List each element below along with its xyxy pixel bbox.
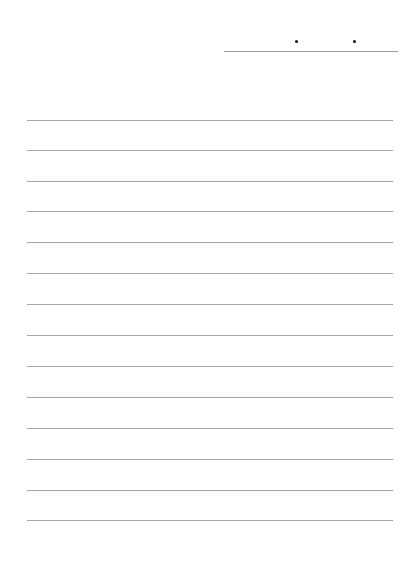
writing-line-12[interactable]: [27, 459, 393, 460]
writing-line-3[interactable]: [27, 181, 393, 182]
writing-line-10[interactable]: [27, 397, 393, 398]
writing-line-2[interactable]: [27, 150, 393, 151]
writing-line-14[interactable]: [27, 520, 393, 521]
date-field[interactable]: [224, 30, 398, 52]
date-separator-dot: [353, 40, 356, 43]
writing-line-6[interactable]: [27, 273, 393, 274]
writing-line-13[interactable]: [27, 490, 393, 491]
notepaper-page: [0, 0, 417, 581]
writing-line-8[interactable]: [27, 335, 393, 336]
writing-line-11[interactable]: [27, 428, 393, 429]
writing-line-1[interactable]: [27, 120, 393, 121]
date-separator-dot: [295, 40, 298, 43]
writing-line-4[interactable]: [27, 211, 393, 212]
date-underline: [224, 51, 398, 52]
writing-line-7[interactable]: [27, 304, 393, 305]
writing-line-9[interactable]: [27, 366, 393, 367]
writing-line-5[interactable]: [27, 242, 393, 243]
